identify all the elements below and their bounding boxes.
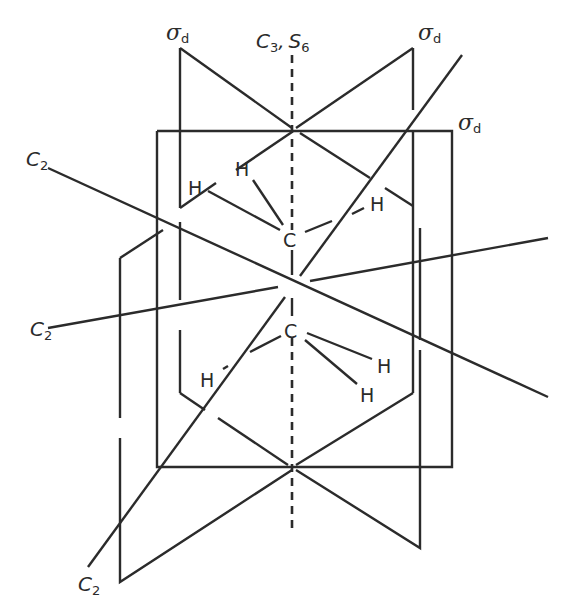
- c2-label-bottom-left: C2: [78, 572, 100, 598]
- hydrogen-upper-1-label: H: [188, 177, 202, 199]
- sigma-d-plane-right: [296, 48, 420, 548]
- c2-axis-1: [48, 168, 548, 397]
- hydrogen-upper-2-label: H: [235, 158, 249, 180]
- c3-s6-label: C3,S6: [256, 29, 310, 55]
- sigma-d-right-label: σd: [418, 20, 441, 46]
- hydrogen-upper-3-label: H: [370, 193, 384, 215]
- sigma-d-left-label: σd: [166, 20, 189, 46]
- c2-label-top-left: C2: [26, 147, 48, 173]
- carbon-upper-label: C: [283, 229, 296, 251]
- carbon-lower-label: C: [284, 320, 297, 342]
- hydrogen-lower-1-label: H: [200, 369, 214, 391]
- sigma-d-front-label: σd: [458, 110, 481, 136]
- c2-label-mid-left: C2: [30, 317, 52, 343]
- lower-methyl-bonds: [223, 333, 372, 384]
- hydrogen-lower-2-label: H: [377, 355, 391, 377]
- sigma-d-plane-left: [120, 48, 292, 582]
- upper-methyl-bonds: [208, 180, 364, 232]
- ethane-symmetry-diagram: C C H H H H H H C3,S6 σd σd σd C2 C2 C2: [0, 0, 576, 613]
- hydrogen-lower-3-label: H: [360, 384, 374, 406]
